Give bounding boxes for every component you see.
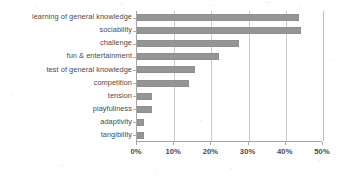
scan-speck — [35, 6, 37, 7]
x-axis-tick — [210, 142, 211, 145]
scan-speck — [210, 5, 212, 6]
bar — [137, 40, 239, 47]
plot-area — [136, 11, 322, 142]
bar-row — [137, 77, 322, 90]
bar — [137, 53, 219, 60]
x-axis-tick — [136, 142, 137, 145]
bar-row — [137, 24, 322, 37]
x-axis-tick — [173, 142, 174, 145]
bar — [137, 119, 144, 126]
bar-series — [137, 11, 322, 141]
category-label: tangibility — [101, 131, 132, 139]
bar — [137, 93, 152, 100]
x-axis-tick — [285, 142, 286, 145]
scan-speck — [330, 60, 332, 61]
bar — [137, 27, 301, 34]
category-label: sociability — [99, 26, 132, 34]
category-axis-labels: learning of general knowledgesociability… — [0, 11, 132, 142]
x-axis-tick-label: 30% — [240, 147, 256, 156]
x-axis-tick-label: 0% — [130, 147, 141, 156]
bar-row — [137, 116, 322, 129]
x-axis-tick — [248, 142, 249, 145]
scan-speck — [265, 2, 269, 3]
bar-row — [137, 11, 322, 24]
scan-speck — [230, 168, 233, 169]
bar-row — [137, 103, 322, 116]
scan-speck — [60, 165, 63, 166]
category-label: competition — [94, 79, 132, 87]
gridline-50% — [323, 11, 324, 141]
category-label: tension — [108, 92, 132, 100]
bar — [137, 66, 195, 73]
x-axis-tick-label: 40% — [277, 147, 293, 156]
category-label: challenge — [100, 39, 132, 47]
x-axis-tick-label: 10% — [165, 147, 181, 156]
bar-row — [137, 90, 322, 103]
scan-speck — [300, 7, 302, 8]
x-axis-tick-label: 50% — [314, 147, 330, 156]
category-label: adaptivity — [100, 118, 132, 126]
category-label: playfullness — [93, 105, 132, 113]
bar-row — [137, 129, 322, 142]
category-label: test of general knowledge — [47, 66, 132, 74]
category-label: learning of general knowledge — [32, 13, 132, 21]
bar — [137, 106, 152, 113]
category-label: fun & entertainment — [67, 52, 132, 60]
scan-speck — [155, 170, 157, 171]
x-axis-tick — [322, 142, 323, 145]
bar-row — [137, 63, 322, 76]
bar-row — [137, 37, 322, 50]
bar — [137, 80, 189, 87]
scan-speck — [318, 160, 320, 161]
bar-row — [137, 50, 322, 63]
x-axis-tick-label: 20% — [203, 147, 219, 156]
bar-chart: learning of general knowledgesociability… — [0, 0, 345, 179]
bar — [137, 14, 299, 21]
scan-speck — [120, 3, 123, 4]
bar — [137, 132, 144, 139]
